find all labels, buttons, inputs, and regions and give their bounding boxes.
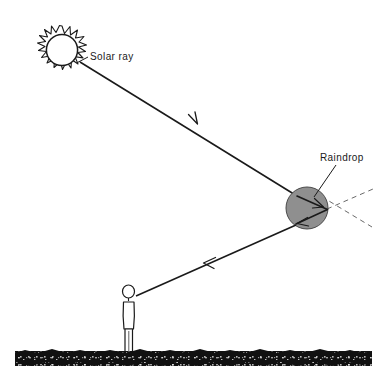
- observer-person: [123, 285, 135, 352]
- raindrop-label-group: Raindrop: [314, 152, 364, 197]
- outgoing-reflected-ray: [136, 225, 296, 296]
- observer-head: [123, 285, 135, 298]
- sun-icon: [38, 26, 87, 70]
- dashed-refraction-line: [327, 189, 373, 209]
- ground-strip: [15, 349, 372, 366]
- raindrop-circle: [286, 187, 328, 229]
- incoming-ray-arrowhead: [189, 112, 198, 124]
- raindrop: [286, 187, 328, 229]
- raindrop-leader-line: [314, 165, 336, 197]
- solar-ray-label-group: Solar ray: [78, 51, 134, 63]
- rainbow-formation-diagram: Solar ray Raindrop: [0, 0, 383, 381]
- outgoing-ray-line: [136, 225, 296, 296]
- ground-top-edge: [15, 349, 372, 356]
- sun-disc: [46, 34, 77, 65]
- incoming-solar-ray: [80, 62, 297, 196]
- solar-ray-label: Solar ray: [90, 51, 134, 62]
- incoming-ray-line: [80, 62, 297, 196]
- raindrop-label: Raindrop: [320, 152, 364, 163]
- diagram-canvas: Solar ray Raindrop: [0, 0, 383, 381]
- observer-torso: [123, 302, 134, 329]
